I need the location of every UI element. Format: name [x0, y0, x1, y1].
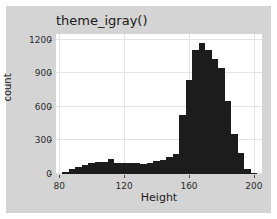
- y-tick-label: 1200: [18, 35, 52, 45]
- y-tick-mark: [49, 174, 52, 175]
- y-axis: 03006009001200: [14, 34, 52, 174]
- histogram-bar: [238, 153, 244, 174]
- x-tick-mark: [124, 175, 125, 178]
- chart-figure: theme_igray() 03006009001200 80120160200…: [0, 0, 277, 219]
- gridline-horizontal: [56, 39, 262, 40]
- x-tick-mark: [59, 175, 60, 178]
- gridline-vertical: [124, 34, 125, 174]
- x-axis: 80120160200: [56, 175, 262, 191]
- gridline-vertical: [254, 34, 255, 174]
- x-tick-mark: [189, 175, 190, 178]
- y-tick-label: 300: [18, 135, 52, 145]
- y-tick-mark: [49, 140, 52, 141]
- plot-panel: [56, 34, 262, 174]
- histogram-bar: [108, 159, 114, 174]
- histogram-bar: [160, 160, 166, 174]
- x-tick-label: 160: [180, 181, 197, 191]
- y-tick-mark: [49, 107, 52, 108]
- x-tick-label: 80: [54, 181, 65, 191]
- y-tick-label: 0: [18, 169, 52, 179]
- x-tick-mark: [254, 175, 255, 178]
- y-tick-label: 600: [18, 102, 52, 112]
- x-tick-label: 200: [245, 181, 262, 191]
- histogram-bar: [212, 59, 218, 174]
- x-axis-label: Height: [56, 191, 262, 204]
- y-axis-label: count: [2, 58, 13, 118]
- gridline-horizontal: [56, 72, 262, 73]
- y-tick-mark: [49, 40, 52, 41]
- y-tick-mark: [49, 73, 52, 74]
- histogram-bar: [251, 173, 257, 174]
- x-tick-label: 120: [116, 181, 133, 191]
- histogram-bar: [82, 165, 88, 174]
- y-tick-label: 900: [18, 68, 52, 78]
- page-title: theme_igray(): [56, 11, 262, 31]
- histogram-bar: [134, 163, 140, 174]
- histogram-bar: [186, 80, 192, 174]
- gridline-vertical: [59, 34, 60, 174]
